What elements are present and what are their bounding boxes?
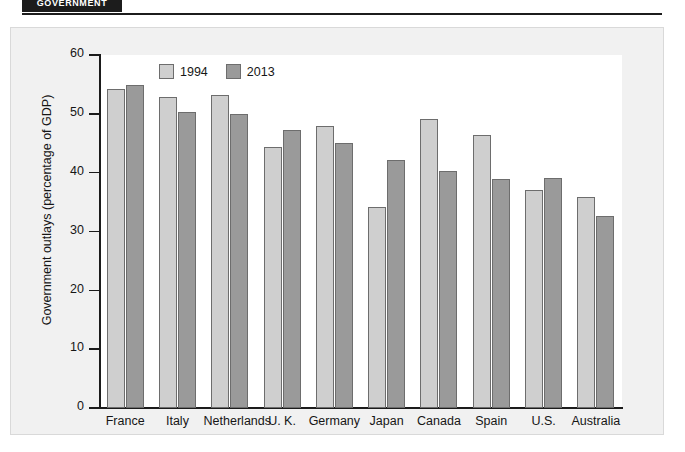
legend-swatch-2013 [226,64,241,79]
y-axis-title: Government outlays (percentage of GDP) [40,30,54,390]
bar-japan-2013 [387,160,405,408]
y-tick: 50 [89,113,101,115]
y-tick-label: 30 [70,223,84,237]
bar-spain-2013 [492,179,510,408]
x-axis-label: Spain [465,414,517,428]
bar-netherlands-1994 [211,95,229,408]
y-tick: 0 [89,407,101,409]
bar-italy-2013 [178,112,196,408]
figure-panel: Government outlays (percentage of GDP) 0… [10,27,664,435]
bar-france-2013 [126,85,144,408]
bar-u-s-2013 [544,178,562,408]
y-tick-label: 20 [70,282,84,296]
legend-label-2013: 2013 [247,65,275,79]
x-axis-label: France [99,414,151,428]
bar-u-s-1994 [525,190,543,408]
x-axis-label: Canada [413,414,465,428]
x-axis-label: U.S. [517,414,569,428]
y-tick: 60 [89,54,101,56]
bar-italy-1994 [159,97,177,408]
x-axis-label: Netherlands [204,414,256,428]
bar-spain-1994 [473,135,491,408]
bar-canada-2013 [439,171,457,408]
legend-item-2013: 2013 [226,64,275,79]
bar-netherlands-2013 [230,114,248,408]
x-axis-label: Germany [308,414,360,428]
y-tick: 40 [89,172,101,174]
bar-germany-2013 [335,143,353,408]
bar-canada-1994 [420,119,438,408]
x-axis-label: Australia [570,414,622,428]
bar-germany-1994 [316,126,334,408]
header-tab-label: GOVERNMENT [22,0,122,12]
bar-u-k-2013 [283,130,301,408]
y-tick-label: 10 [70,340,84,354]
x-axis-label: Italy [151,414,203,428]
header-strip: GOVERNMENT [0,0,685,16]
bar-japan-1994 [368,207,386,408]
legend-item-1994: 1994 [159,64,208,79]
y-tick: 30 [89,231,101,233]
bar-u-k-1994 [264,147,282,408]
legend-label-1994: 1994 [180,65,208,79]
y-tick: 20 [89,290,101,292]
y-tick-label: 0 [77,399,84,413]
y-tick: 10 [89,348,101,350]
y-tick-label: 50 [70,105,84,119]
legend-swatch-1994 [159,64,174,79]
x-axis-label: U. K. [256,414,308,428]
header-divider [22,13,662,15]
chart-legend: 19942013 [159,64,275,79]
bar-australia-1994 [577,197,595,408]
bar-australia-2013 [596,216,614,408]
y-tick-label: 60 [70,46,84,60]
x-axis-label: Japan [361,414,413,428]
bar-france-1994 [107,89,125,408]
y-tick-label: 40 [70,164,84,178]
